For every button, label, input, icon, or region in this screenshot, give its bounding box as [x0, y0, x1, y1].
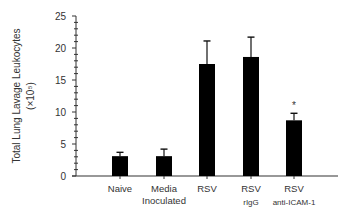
bar: [199, 64, 215, 176]
category-label: RSV: [241, 183, 261, 194]
bar: [243, 57, 259, 176]
category-label: RSV: [197, 183, 217, 194]
category-sublabel: anti-ICAM-1: [273, 198, 316, 207]
category-label: Media: [151, 183, 178, 194]
y-axis-unit: (×10⁵): [25, 82, 36, 110]
y-tick-label: 5: [60, 139, 66, 150]
y-axis-title: Total Lung Lavage Leukocytes (×10⁵): [11, 28, 36, 163]
category-sublabel: rIgG: [243, 198, 259, 207]
bar: [112, 156, 128, 176]
category-labels: NaiveMediaInoculatedRSVRSVrIgGRSVanti-IC…: [108, 183, 316, 207]
x-axis: [72, 176, 338, 179]
bar: [286, 120, 302, 176]
category-label: Naive: [108, 183, 132, 194]
y-axis: 0510152025: [55, 11, 78, 182]
y-tick-label: 15: [55, 75, 67, 86]
category-label: RSV: [284, 183, 304, 194]
y-tick-label: 20: [55, 43, 67, 54]
category-sublabel: Inoculated: [142, 195, 186, 206]
y-axis-label: Total Lung Lavage Leukocytes: [11, 28, 22, 163]
bars: *: [112, 37, 302, 176]
y-tick-label: 10: [55, 107, 67, 118]
significance-asterisk: *: [292, 100, 296, 111]
y-tick-label: 25: [55, 11, 67, 22]
y-tick-label: 0: [60, 171, 66, 182]
bar-chart: 0510152025 * NaiveMediaInoculatedRSVRSVr…: [0, 0, 354, 223]
bar: [156, 156, 172, 176]
